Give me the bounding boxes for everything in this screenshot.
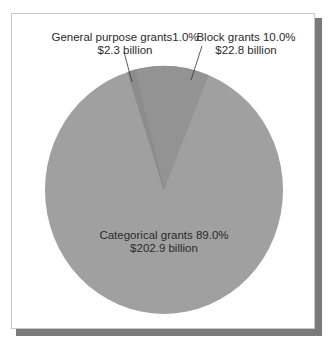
block-label-title: Block grants 10.0% (186, 31, 306, 44)
categorical-label-amount: $202.9 billion (84, 242, 244, 255)
label-categorical-grants: Categorical grants 89.0% $202.9 billion (84, 229, 244, 255)
label-block-grants: Block grants 10.0% $22.8 billion (186, 31, 306, 57)
categorical-label-title: Categorical grants 89.0% (84, 229, 244, 242)
block-label-amount: $22.8 billion (186, 44, 306, 57)
